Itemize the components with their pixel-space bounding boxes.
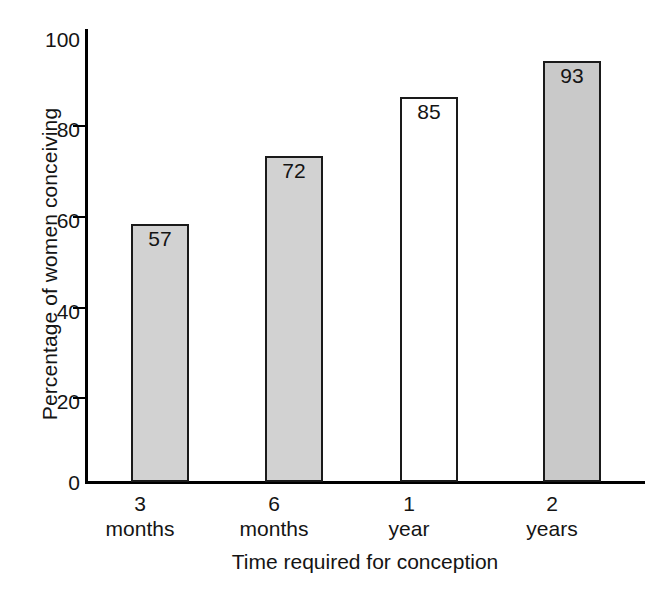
x-tick-unit-1: months — [81, 517, 199, 542]
bar-value-1-year: 85 — [400, 101, 458, 122]
x-tick-label-6-months: 6 months — [215, 492, 333, 542]
x-tick-number-2: 6 — [215, 492, 333, 517]
bar-3-months[interactable] — [131, 224, 189, 482]
y-tick-label-80: 80 — [34, 119, 80, 140]
x-tick-label-2-years: 2 years — [493, 492, 611, 542]
y-axis-tick-labels: 100 80 60 40 20 0 — [30, 0, 80, 594]
y-tick-label-0: 0 — [34, 472, 80, 493]
bar-2-years[interactable] — [543, 61, 601, 482]
x-tick-number-4: 2 — [493, 492, 611, 517]
x-tick-label-3-months: 3 months — [81, 492, 199, 542]
x-tick-number-3: 1 — [350, 492, 468, 517]
x-tick-unit-3: year — [350, 517, 468, 542]
y-tick-label-20: 20 — [34, 391, 80, 412]
y-tick-label-100: 100 — [34, 29, 80, 50]
x-tick-number-1: 3 — [81, 492, 199, 517]
x-tick-label-1-year: 1 year — [350, 492, 468, 542]
x-axis-title: Time required for conception — [85, 550, 645, 574]
x-tick-unit-2: months — [215, 517, 333, 542]
bar-value-2-years: 93 — [543, 65, 601, 86]
bar-value-3-months: 57 — [131, 228, 189, 249]
x-tick-unit-4: years — [493, 517, 611, 542]
y-tick-label-60: 60 — [34, 210, 80, 231]
bar-value-6-months: 72 — [265, 160, 323, 181]
plot-area: 57 72 85 93 — [85, 29, 645, 482]
bar-1-year[interactable] — [400, 97, 458, 482]
bar-6-months[interactable] — [265, 156, 323, 482]
y-tick-label-40: 40 — [34, 301, 80, 322]
bar-chart: Percentage of women conceiving 100 80 60… — [0, 0, 662, 594]
